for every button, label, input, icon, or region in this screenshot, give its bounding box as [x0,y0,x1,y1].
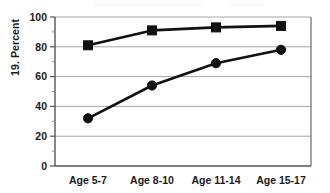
y-label-40: 40 [35,100,47,112]
y-label-20: 20 [35,130,47,142]
x-label-age-5-7: Age 5-7 [69,174,107,186]
gridlines [55,17,311,136]
y-label-60: 60 [35,70,47,82]
series-circle-line [88,50,281,119]
data-point-circle-age-11-14 [211,59,220,68]
series-square [84,21,286,49]
x-label-age-11-14: Age 11-14 [191,174,240,186]
y-label-80: 80 [35,41,47,53]
series-square-line [88,26,281,45]
data-point-square-age-8-10 [148,26,157,35]
x-label-age-15-17: Age 15-17 [256,174,306,186]
data-point-square-age-5-7 [84,41,93,50]
y-label-100: 100 [29,11,47,23]
data-point-square-age-15-17 [277,21,286,30]
y-tick-labels: 100 80 60 40 20 0 [29,11,47,172]
plot-area: 100 80 60 40 20 0 Age 5-7 Age 8-10 Age 1… [0,0,330,193]
plot-frame [55,17,311,166]
data-point-square-age-11-14 [212,23,221,32]
series-circle [83,45,285,123]
y-label-0: 0 [41,160,47,172]
data-point-circle-age-8-10 [147,81,156,90]
chart-container: 19. Percent [0,0,330,193]
x-tick-labels: Age 5-7 Age 8-10 Age 11-14 Age 15-17 [69,174,306,186]
data-point-circle-age-15-17 [276,45,285,54]
data-point-circle-age-5-7 [83,114,92,123]
x-label-age-8-10: Age 8-10 [130,174,174,186]
